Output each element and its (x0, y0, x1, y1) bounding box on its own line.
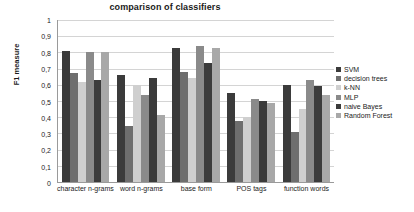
bar-set (168, 20, 223, 182)
legend-label: Random Forest (344, 112, 392, 119)
x-axis-tick: POS tags (224, 185, 279, 199)
y-axis-tick-labels: 10,90,80,70,60,50,40,30,20,10 (0, 20, 55, 183)
y-axis-tick: 0,6 (1, 82, 51, 89)
bar (86, 52, 94, 182)
bar (180, 72, 188, 182)
bar (322, 95, 330, 182)
bar (62, 51, 70, 182)
y-axis-tick: 0 (1, 180, 51, 187)
bar (212, 48, 220, 182)
bar (259, 101, 267, 182)
y-axis-tick: 0,1 (1, 163, 51, 170)
x-axis-tick: function words (279, 185, 334, 199)
legend-swatch-icon (336, 95, 341, 100)
x-axis-tick: character n-grams (57, 185, 114, 199)
bar (314, 86, 322, 182)
bar (172, 48, 180, 182)
bar (117, 75, 125, 182)
bar (101, 52, 109, 182)
bar (306, 80, 314, 182)
bar-group (224, 20, 279, 182)
bar (141, 95, 149, 182)
bar (78, 82, 86, 182)
bar-group (279, 20, 334, 182)
legend-label: decision trees (344, 75, 387, 82)
bar (94, 80, 102, 182)
bar (291, 132, 299, 182)
x-axis-tick: word n-grams (114, 185, 169, 199)
bar-set (224, 20, 279, 182)
bar (196, 46, 204, 182)
legend: SVMdecision treesk-NNMLPnaive BayesRando… (336, 66, 414, 121)
legend-item[interactable]: naive Bayes (336, 103, 414, 110)
bar (188, 78, 196, 182)
y-axis-tick: 0,7 (1, 65, 51, 72)
legend-label: naive Bayes (344, 103, 382, 110)
bar (149, 78, 157, 182)
bar (133, 85, 141, 182)
y-axis-tick: 0,9 (1, 33, 51, 40)
legend-swatch-icon (336, 113, 341, 118)
bar (157, 115, 165, 182)
bar (243, 117, 251, 182)
bar (204, 63, 212, 182)
chart-title: comparison of classifiers (0, 2, 330, 12)
bar-set (279, 20, 334, 182)
y-axis-tick: 0,8 (1, 49, 51, 56)
y-axis-tick: 0,4 (1, 114, 51, 121)
bar (267, 103, 275, 182)
bar (299, 109, 307, 182)
chart-figure: comparison of classifiers F1 measure 10,… (0, 0, 414, 212)
y-axis-tick: 1 (1, 17, 51, 24)
legend-item[interactable]: SVM (336, 66, 414, 73)
legend-swatch-icon (336, 85, 341, 90)
bar-groups (58, 20, 334, 182)
y-axis-tick: 0,3 (1, 131, 51, 138)
x-axis-tick-labels: character n-gramsword n-gramsbase formPO… (57, 185, 334, 199)
legend-item[interactable]: k-NN (336, 84, 414, 91)
legend-label: k-NN (344, 84, 360, 91)
legend-item[interactable]: MLP (336, 94, 414, 101)
bar (227, 93, 235, 182)
bar-group (113, 20, 168, 182)
bar (70, 73, 78, 182)
legend-label: SVM (344, 66, 359, 73)
bar-set (58, 20, 113, 182)
bar-set (113, 20, 168, 182)
legend-swatch-icon (336, 76, 341, 81)
legend-swatch-icon (336, 104, 341, 109)
x-axis-tick: base form (169, 185, 224, 199)
bar-group (58, 20, 113, 182)
bar (283, 85, 291, 182)
bar (235, 121, 243, 182)
legend-item[interactable]: decision trees (336, 75, 414, 82)
y-axis-tick: 0,5 (1, 98, 51, 105)
y-axis-tick: 0,2 (1, 147, 51, 154)
legend-swatch-icon (336, 67, 341, 72)
legend-item[interactable]: Random Forest (336, 112, 414, 119)
bar (125, 126, 133, 182)
plot-area (57, 20, 334, 183)
legend-label: MLP (344, 94, 358, 101)
bar (251, 99, 259, 182)
bar-group (168, 20, 223, 182)
